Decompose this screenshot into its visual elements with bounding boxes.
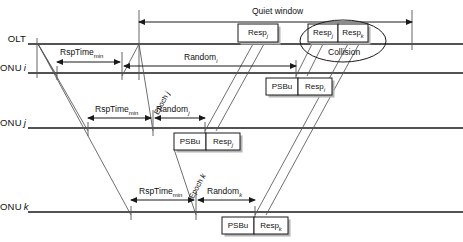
measure-label-rsptime-j: RspTimemin: [95, 104, 138, 116]
diagram-canvas: [0, 0, 463, 242]
timeline-axes: [28, 44, 463, 212]
measure-label-rsptime-k: RspTimemin: [139, 186, 182, 198]
epoch-k-line: [174, 149, 196, 215]
box-text-onu-k-burst-1: Respk: [254, 221, 288, 232]
collision-label: Collision: [328, 47, 360, 57]
box-text-onu-i-burst-0: PSBu: [266, 82, 298, 91]
axis-label-olt: OLT: [0, 33, 26, 44]
measure-label-rsptime-i: RspTimemin: [60, 47, 103, 59]
prop-qw-to-i: [122, 44, 139, 76]
resp-j-up2: [216, 44, 264, 131]
box-text-olt-resp-j-0: Respj: [238, 28, 278, 39]
quiet-window-label: Quiet window: [252, 6, 303, 16]
box-text-onu-k-burst-0: PSBu: [222, 221, 254, 230]
resp-k-up: [255, 44, 348, 215]
axis-label-onu_k: ONUk: [0, 201, 26, 212]
measure-label-random-k: Randomk: [207, 186, 242, 198]
measure-arrows: [57, 62, 296, 200]
resp-k-up2: [266, 44, 359, 215]
box-text-olt-collision-resp-j-1: Respk: [338, 28, 368, 39]
box-text-olt-collision-resp-j-0: Respj: [308, 28, 338, 39]
measure-label-random-i: Randomi: [184, 52, 217, 64]
box-text-onu-i-burst-1: Respi: [298, 82, 332, 93]
timing-diagram: OLTONUiONUjONUk Quiet windowRspTimeminRa…: [0, 0, 463, 242]
axis-label-onu_j: ONUj: [0, 117, 26, 128]
box-text-onu-j-burst-0: PSBu: [174, 137, 206, 146]
box-text-onu-j-burst-1: Respj: [206, 137, 240, 148]
prop-olt-to-k: [38, 44, 131, 215]
axis-label-onu_i: ONUi: [0, 62, 26, 73]
